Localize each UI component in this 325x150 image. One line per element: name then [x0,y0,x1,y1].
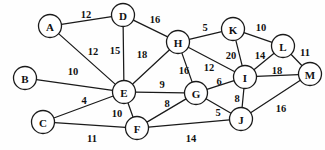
weighted-graph-figure: 1212104111516189108141665125201418816101… [0,0,325,150]
node-label: L [279,41,286,53]
edge-weight-label: 10 [112,108,123,119]
edge-weight-label: 16 [276,103,287,114]
edge-weight-label: 12 [204,62,215,73]
node-label: B [21,73,29,85]
edge-weight-label: 14 [255,50,266,61]
graph-edge [54,123,125,128]
edge-weight-label: 15 [110,45,121,56]
graph-node: C [32,111,55,134]
graph-canvas: 1212104111516189108141665125201418816101… [0,0,325,150]
edge-weight-label: 5 [215,107,220,118]
graph-node: L [272,35,295,58]
graph-edge [236,40,242,66]
edge-weight-label: 5 [202,22,207,33]
edge-weight-label: 8 [234,93,239,104]
graph-node: M [299,63,322,86]
graph-node: K [222,18,245,41]
node-label: K [229,24,238,36]
graph-node: F [126,117,149,140]
graph-node: A [39,15,62,38]
edge-weight-label: 20 [226,50,237,61]
edge-weight-label: 11 [300,47,310,58]
edge-weight-label: 12 [81,9,92,20]
graph-node: G [185,82,208,105]
graph-edge [59,34,116,85]
graph-edge [123,27,124,81]
graph-node: J [230,108,253,131]
node-label: E [120,87,127,99]
edge-weight-label: 18 [272,65,283,76]
graph-node: H [167,31,190,54]
node-label: I [243,72,247,84]
graph-edge [242,88,244,107]
graph-edge [128,103,133,117]
graph-node: I [234,66,257,89]
graph-edge [244,33,272,43]
edge-weight-label: 8 [164,98,169,109]
edge-weight-label: 14 [186,133,197,144]
edge-weight-label: 12 [88,46,99,57]
node-label: G [192,88,201,100]
graph-edge [189,32,222,40]
edge-weight-label: 6 [216,76,221,87]
graph-edge [136,92,185,93]
node-label: D [119,10,127,22]
edge-weight-label: 16 [179,65,190,76]
node-label: H [174,37,183,49]
edge-weight-label: 11 [87,133,97,144]
node-label: J [238,114,244,126]
graph-edge [148,120,229,127]
graph-node: D [112,4,135,27]
edge-weight-label: 4 [81,95,87,106]
edge-weight-label: 10 [256,22,267,33]
node-label: C [39,117,47,129]
graph-node: B [14,67,37,90]
node-label: M [305,69,316,81]
edge-weight-label: 9 [159,79,164,90]
graph-edge [36,80,112,91]
edge-weight-label: 10 [68,66,79,77]
graph-node: E [113,81,136,104]
edge-weight-label: 16 [150,14,161,25]
node-label: A [46,21,54,33]
node-label: F [134,123,141,135]
edge-weight-label: 18 [137,49,148,60]
